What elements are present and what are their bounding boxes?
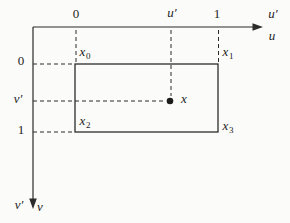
- u-tick-0: 0: [73, 7, 80, 20]
- corner-label-x3: x3: [223, 119, 234, 135]
- corner-label-x2: x2: [80, 114, 91, 130]
- diagram-canvas: [0, 0, 290, 223]
- corner-label-x1: x1: [223, 45, 234, 61]
- v-tick-1: 1: [18, 123, 25, 136]
- v-axis-label-prime: v′: [15, 198, 24, 211]
- v-axis-arrowhead-icon: [29, 199, 37, 210]
- point-label: x: [181, 92, 187, 105]
- u-tick-uprime: u′: [167, 6, 176, 19]
- v-axis-label: v: [37, 200, 43, 213]
- v-tick-0: 0: [18, 54, 25, 67]
- u-tick-1: 1: [214, 7, 221, 20]
- u-axis-label: u: [269, 29, 276, 42]
- interpolation-diagram: 0 u′ 1 u′ u 0 v′ 1 v′ v x0 x1 x2 x3 x: [0, 0, 290, 223]
- corner-label-x0: x0: [80, 45, 91, 61]
- unit-rectangle: [75, 64, 218, 132]
- u-axis-arrowhead-icon: [253, 23, 264, 31]
- u-axis-label-prime: u′: [268, 7, 277, 20]
- v-tick-vprime: v′: [14, 92, 23, 105]
- point-dot: [167, 98, 174, 105]
